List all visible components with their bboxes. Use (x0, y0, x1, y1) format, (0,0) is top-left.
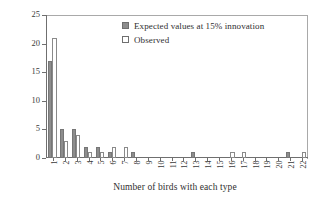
y-tick-mark (42, 44, 46, 45)
bar-expected-13 (191, 152, 195, 158)
bar-observed-22 (302, 152, 306, 158)
bar-expected-8 (131, 152, 135, 158)
bar-observed-1 (52, 38, 56, 158)
x-tick-label: 10 (156, 161, 165, 174)
y-tick-20: 20 (0, 44, 46, 45)
y-tick-label: 15 (32, 66, 41, 77)
bar-observed-7 (124, 147, 128, 158)
x-axis-title: Number of birds with each type (40, 182, 310, 192)
x-tick-label: 2 (61, 161, 70, 174)
y-tick-label: 25 (32, 9, 41, 20)
y-tick-10: 10 (0, 101, 46, 102)
bar-observed-3 (76, 135, 80, 158)
x-tick-label: 11 (168, 161, 177, 174)
y-tick-mark (42, 101, 46, 102)
x-tick-label: 17 (239, 161, 248, 174)
x-tick-label: 14 (204, 161, 213, 174)
x-tick-label: 8 (132, 161, 141, 174)
x-tick-label: 19 (263, 161, 272, 174)
x-tick-label: 7 (121, 161, 130, 174)
x-tick-label: 15 (216, 161, 225, 174)
x-tick-label: 21 (287, 161, 296, 174)
bar-expected-21 (286, 152, 290, 158)
bar-observed-5 (100, 152, 104, 158)
y-tick-25: 25 (0, 15, 46, 16)
x-tick-label: 18 (251, 161, 260, 174)
x-tick-label: 20 (275, 161, 284, 174)
y-tick-label: 10 (32, 95, 41, 106)
x-tick-label: 13 (192, 161, 201, 174)
y-tick-label: 0 (36, 152, 40, 163)
bar-observed-2 (64, 141, 68, 158)
y-tick-mark (42, 15, 46, 16)
bar-observed-4 (88, 152, 92, 158)
chart-figure: Number of song types 0510152025 12345678… (0, 0, 317, 203)
y-tick-5: 5 (0, 129, 46, 130)
x-tick-label: 1 (49, 161, 58, 174)
y-tick-mark (42, 72, 46, 73)
legend-swatch-observed-icon (122, 36, 129, 43)
bar-observed-17 (242, 152, 246, 158)
y-tick-label: 20 (32, 38, 41, 49)
x-tick-label: 16 (227, 161, 236, 174)
y-tick-mark (42, 129, 46, 130)
y-tick-label: 5 (36, 123, 40, 134)
legend-label-observed: Observed (134, 35, 169, 45)
y-tick-15: 15 (0, 72, 46, 73)
legend-item-observed: Observed (122, 33, 264, 46)
x-tick-label: 4 (85, 161, 94, 174)
legend-swatch-expected-icon (122, 22, 129, 29)
chart-legend: Expected values at 15% innovation Observ… (122, 19, 264, 47)
bar-observed-6 (112, 147, 116, 158)
x-tick-label: 3 (73, 161, 82, 174)
legend-label-expected: Expected values at 15% innovation (134, 21, 264, 31)
x-tick-label: 22 (299, 161, 308, 174)
x-tick-label: 9 (144, 161, 153, 174)
bar-observed-16 (230, 152, 234, 158)
legend-item-expected: Expected values at 15% innovation (122, 19, 264, 32)
x-tick-label: 5 (97, 161, 106, 174)
y-tick-0: 0 (0, 158, 46, 159)
x-tick-label: 12 (180, 161, 189, 174)
x-tick-label: 6 (109, 161, 118, 174)
y-tick-mark (42, 158, 46, 159)
